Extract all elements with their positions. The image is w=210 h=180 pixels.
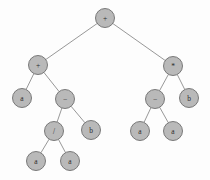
tree-node-circle <box>96 9 115 28</box>
tree-node: − <box>56 90 75 109</box>
tree-edge <box>71 106 85 122</box>
tree-node: a <box>164 122 183 141</box>
tree-node: + <box>29 56 48 75</box>
tree-node-circle <box>45 122 64 141</box>
expression-tree-figure: ++*a−−b/baaaa <box>0 0 210 180</box>
tree-edge <box>160 74 169 90</box>
tree-node-circle <box>146 90 165 109</box>
tree-edge <box>144 108 151 123</box>
expression-tree-canvas: ++*a−−b/baaaa <box>0 0 210 180</box>
tree-node: − <box>146 90 165 109</box>
tree-node-circle <box>180 89 199 108</box>
tree-node: a <box>61 152 80 171</box>
tree-node: * <box>164 57 183 76</box>
tree-node-circle <box>56 90 75 109</box>
tree-edge <box>26 74 34 90</box>
tree-node: a <box>131 122 150 141</box>
tree-node-circle <box>13 89 32 108</box>
tree-node: a <box>27 152 46 171</box>
tree-edge <box>44 72 59 91</box>
tree-node-circle <box>164 122 183 141</box>
tree-node-circle <box>61 152 80 171</box>
tree-edge <box>58 139 65 152</box>
tree-node: + <box>96 9 115 28</box>
tree-node: b <box>82 121 101 140</box>
tree-edge <box>46 23 97 59</box>
tree-edge <box>177 75 185 90</box>
tree-node-circle <box>82 121 101 140</box>
tree-node-circle <box>27 152 46 171</box>
tree-node: a <box>13 89 32 108</box>
tree-node: b <box>180 89 199 108</box>
tree-edge <box>57 108 62 122</box>
tree-edge <box>41 139 49 153</box>
tree-node: / <box>45 122 64 141</box>
tree-node-circle <box>131 122 150 141</box>
tree-edge <box>160 107 169 122</box>
node-layer: ++*a−−b/baaaa <box>13 9 199 171</box>
tree-edge <box>113 23 165 60</box>
tree-node-circle <box>29 56 48 75</box>
tree-node-circle <box>164 57 183 76</box>
